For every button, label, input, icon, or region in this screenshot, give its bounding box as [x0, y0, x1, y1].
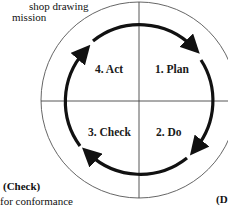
quadrant-plan-label: 1. Plan — [155, 63, 189, 75]
quadrant-check-label: 3. Check — [88, 126, 131, 138]
quadrant-act-label: 4. Act — [95, 63, 123, 75]
arrow-check-to-act — [65, 52, 84, 146]
quadrant-do-label: 2. Do — [156, 126, 182, 138]
arrow-act-to-plan — [93, 25, 193, 47]
arrow-do-to-check — [89, 154, 187, 174]
outer-circle — [41, 2, 228, 198]
arrow-plan-to-do — [196, 60, 213, 148]
pdca-cycle-diagram: 1. Plan 2. Do 3. Check 4. Act — [0, 0, 228, 209]
